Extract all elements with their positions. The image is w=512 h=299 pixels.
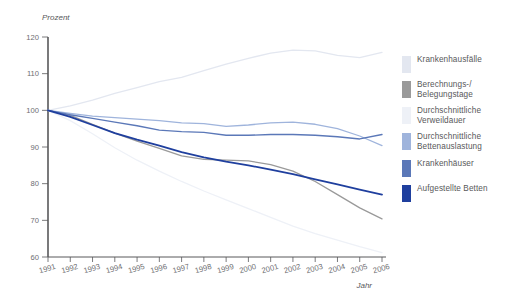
y-axis: 12011010090807060 (26, 33, 48, 262)
x-tick-label: 1991 (38, 262, 57, 275)
line-chart-svg: 12011010090807060 1991199219931994199519… (0, 0, 400, 299)
x-tick-label: 1995 (127, 262, 146, 275)
legend-swatch-icon (402, 133, 411, 150)
legend-item[interactable]: Krankenhäuser (402, 159, 512, 177)
x-tick-label: 1992 (60, 262, 79, 275)
chart-root: 12011010090807060 1991199219931994199519… (0, 0, 512, 299)
y-tick-label: 120 (26, 33, 39, 42)
x-tick-label: 2002 (283, 262, 302, 275)
legend-item-label: Berechnungs-/Belegungstage (417, 80, 473, 99)
x-tick-label: 1997 (172, 262, 191, 275)
x-tick-label: 1996 (149, 262, 168, 275)
x-tick-label: 1999 (216, 262, 235, 275)
x-tick-label: 2004 (327, 262, 346, 275)
series-line (48, 110, 382, 252)
x-axis-title: Jahr (355, 281, 372, 290)
x-tick-label: 1993 (82, 262, 101, 275)
x-tick-label: 2005 (350, 262, 369, 275)
legend-swatch-icon (402, 185, 411, 202)
series-line (48, 110, 382, 194)
y-tick-label: 60 (31, 253, 39, 262)
legend-swatch-icon (402, 56, 411, 73)
legend-item-label: Krankenhausfälle (417, 55, 482, 65)
x-tick-label: 2001 (261, 262, 280, 275)
chart-plot-area: 12011010090807060 1991199219931994199519… (0, 0, 400, 299)
legend-item[interactable]: Krankenhausfälle (402, 55, 512, 73)
x-tick-label: 2003 (305, 262, 324, 275)
chart-legend: KrankenhausfälleBerechnungs-/Belegungsta… (402, 55, 512, 209)
x-tick-label: 2006 (372, 262, 391, 275)
y-tick-label: 70 (31, 216, 39, 225)
legend-item-label: DurchschnittlicheVerweildauer (417, 106, 481, 125)
x-tick-label: 2000 (238, 262, 257, 275)
legend-swatch-icon (402, 107, 411, 124)
x-tick-label: 1994 (105, 262, 124, 275)
legend-swatch-icon (402, 160, 411, 177)
legend-item[interactable]: Berechnungs-/Belegungstage (402, 80, 512, 99)
legend-item[interactable]: Aufgestellte Betten (402, 184, 512, 202)
legend-item-label: Krankenhäuser (417, 159, 474, 169)
y-tick-label: 80 (31, 179, 39, 188)
y-tick-label: 90 (31, 143, 39, 152)
legend-item[interactable]: DurchschnittlicheBettenauslastung (402, 132, 512, 151)
legend-item[interactable]: DurchschnittlicheVerweildauer (402, 106, 512, 125)
series-line (48, 50, 382, 110)
legend-item-label: Aufgestellte Betten (417, 184, 488, 194)
legend-swatch-icon (402, 81, 411, 98)
x-tick-label: 1998 (194, 262, 213, 275)
series-lines (48, 50, 382, 252)
legend-item-label: DurchschnittlicheBettenauslastung (417, 132, 482, 151)
y-axis-title: Prozent (42, 13, 70, 22)
y-tick-label: 100 (26, 106, 39, 115)
x-axis: 1991199219931994199519961997199819992000… (38, 257, 391, 275)
y-tick-label: 110 (27, 69, 39, 78)
